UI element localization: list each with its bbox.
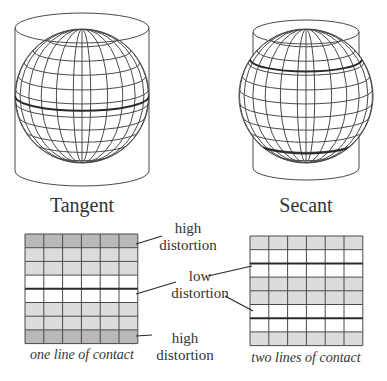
secant-title: Secant <box>256 194 356 217</box>
high-bottom-line1: high <box>145 330 225 347</box>
low-distortion-label: low distortion <box>160 268 240 302</box>
high-top-line2: distortion <box>148 237 228 254</box>
high-top-line1: high <box>148 220 228 237</box>
low-line2: distortion <box>160 285 240 302</box>
secant-distortion-grid <box>250 236 363 346</box>
high-distortion-label-top: high distortion <box>148 220 228 254</box>
low-line1: low <box>160 268 240 285</box>
globe <box>239 29 373 163</box>
tangent-distortion-grid <box>25 234 138 344</box>
secant-panel <box>239 20 373 180</box>
secant-caption: two lines of contact <box>241 350 371 366</box>
globe <box>15 29 149 163</box>
tangent-caption: one line of contact <box>22 347 142 363</box>
tangent-panel <box>15 13 149 186</box>
high-bottom-line2: distortion <box>145 347 225 364</box>
projection-diagram <box>0 0 387 381</box>
high-distortion-label-bottom: high distortion <box>145 330 225 364</box>
tangent-title: Tangent <box>32 194 132 217</box>
